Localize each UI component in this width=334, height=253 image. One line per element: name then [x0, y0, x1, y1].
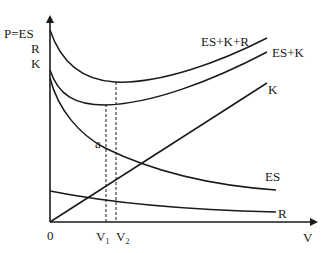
v1-main: V — [96, 229, 105, 244]
y-axis-label-line-1: P=ES — [4, 27, 34, 40]
origin-label: 0 — [47, 229, 54, 242]
v1-label: V1 — [96, 230, 109, 246]
cost-velocity-diagram: P=ES R K 0 V ES+K+R ES+K K ES R a V1 V2 — [0, 0, 334, 253]
v2-label: V2 — [116, 230, 129, 246]
curve-label-k: K — [268, 83, 277, 96]
v2-subscript: 2 — [125, 237, 129, 246]
point-a-label: a — [95, 137, 101, 150]
v1-subscript: 1 — [105, 237, 109, 246]
y-axis-label-line-3: K — [31, 57, 40, 70]
y-axis-label-line-2: R — [31, 42, 40, 55]
curve-label-r: R — [278, 207, 287, 220]
x-axis-label: V — [303, 231, 312, 244]
curve-r — [50, 191, 276, 212]
curve-label-es: ES — [265, 170, 280, 183]
curve-label-es-k-r: ES+K+R — [201, 35, 249, 48]
curve-label-es-k: ES+K — [272, 46, 304, 59]
v2-main: V — [116, 229, 125, 244]
curve-k — [50, 83, 267, 222]
